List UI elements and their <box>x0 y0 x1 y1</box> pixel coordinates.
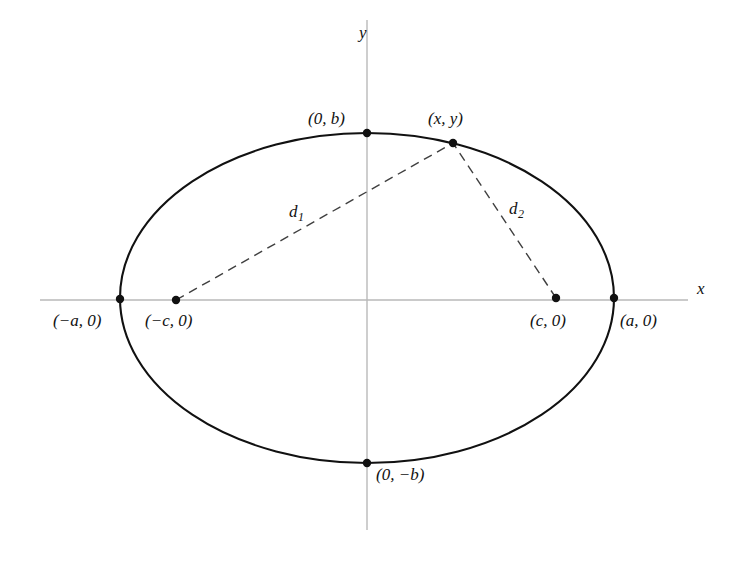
label-vertex-bottom: (0, −b) <box>376 466 424 483</box>
y-axis-label: y <box>359 24 367 41</box>
figure-canvas <box>0 0 743 564</box>
label-vertex-right: (a, 0) <box>620 312 657 329</box>
label-focus-left: (−c, 0) <box>145 312 192 329</box>
x-axis-label: x <box>697 280 705 297</box>
label-focus-right: (c, 0) <box>530 312 566 329</box>
label-vertex-top: (0, b) <box>308 110 345 127</box>
ellipse-figure: x y (0, b) (x, y) (−a, 0) (−c, 0) (c, 0)… <box>0 0 743 564</box>
point-marker-vertex-top <box>363 129 371 137</box>
point-marker-focus-right <box>552 294 560 302</box>
d1-subscript: 1 <box>298 210 304 224</box>
d2-subscript: 2 <box>518 207 524 221</box>
focal-radius-d2-line <box>453 143 556 298</box>
label-vertex-left: (−a, 0) <box>53 312 101 329</box>
d2-base: d <box>509 199 518 218</box>
label-focal-radius-d1: d1 <box>289 203 304 220</box>
point-marker-vertex-right <box>610 294 618 302</box>
d1-base: d <box>289 202 298 221</box>
point-marker-point-on-curve <box>449 139 457 147</box>
point-marker-focus-left <box>172 296 180 304</box>
point-marker-vertex-bottom <box>363 459 371 467</box>
label-focal-radius-d2: d2 <box>509 200 524 217</box>
label-point-on-curve: (x, y) <box>428 110 463 127</box>
point-marker-vertex-left <box>116 295 124 303</box>
